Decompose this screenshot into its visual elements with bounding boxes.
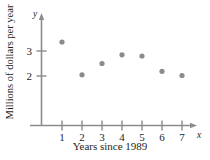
plot-canvas: 3 2 1 2 3 4 5 6 7 y x	[0, 0, 210, 160]
y-axis-title: Millions of dollars per year	[4, 0, 16, 128]
data-point	[179, 73, 184, 78]
y-axis-arrow-icon	[39, 13, 44, 20]
data-point	[139, 53, 144, 58]
data-point	[119, 52, 124, 57]
data-point	[59, 39, 64, 44]
data-point-group	[59, 39, 184, 78]
y-tick-label-3: 3	[27, 45, 33, 57]
x-axis-arrow-icon	[190, 123, 197, 128]
data-point	[79, 72, 84, 77]
y-tick-label-2: 2	[27, 70, 33, 82]
x-axis-variable-label: x	[196, 130, 202, 140]
y-axis-variable-label: y	[32, 9, 38, 19]
scatter-plot-figure: 3 2 1 2 3 4 5 6 7 y x	[0, 0, 210, 160]
data-point	[99, 61, 104, 66]
x-axis-title: Years since 1989	[30, 140, 190, 152]
data-point	[159, 69, 164, 74]
